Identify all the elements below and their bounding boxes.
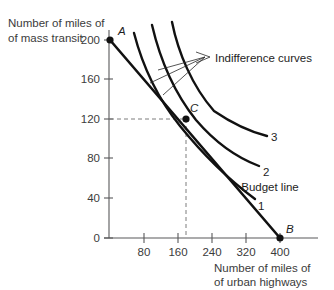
y-axis-title-line-1: Number of miles of bbox=[8, 17, 105, 29]
point-a-marker bbox=[106, 36, 113, 43]
chart-canvas: 0 40 80 120 160 200 80 160 240 320 400 bbox=[0, 0, 334, 290]
curve-label-1: 1 bbox=[258, 200, 264, 212]
y-tick-label-0: 0 bbox=[94, 232, 100, 244]
x-tick-label-400: 400 bbox=[270, 246, 289, 258]
x-axis-title-line-1: Number of miles of bbox=[214, 262, 311, 274]
point-c-marker bbox=[182, 115, 189, 122]
x-tick-label-240: 240 bbox=[202, 246, 221, 258]
y-tick-label-160: 160 bbox=[81, 73, 100, 85]
y-tick-label-80: 80 bbox=[87, 152, 100, 164]
y-tick-label-200: 200 bbox=[81, 34, 100, 46]
y-axis-title-line-2: of mass transit bbox=[8, 32, 84, 44]
point-b-label: B bbox=[286, 223, 294, 235]
curve-label-3: 3 bbox=[271, 131, 277, 143]
point-a-label: A bbox=[117, 25, 126, 37]
x-tick-label-80: 80 bbox=[138, 246, 151, 258]
indifference-curve-2 bbox=[152, 25, 259, 166]
x-axis-title-line-2: of urban highways bbox=[214, 276, 308, 288]
indifference-curves-annotation: Indifference curves bbox=[215, 52, 312, 64]
y-tick-label-120: 120 bbox=[81, 113, 100, 125]
point-b-marker bbox=[276, 234, 283, 241]
curve-label-2: 2 bbox=[263, 166, 269, 178]
indifference-curve-figure: 0 40 80 120 160 200 80 160 240 320 400 bbox=[0, 0, 334, 290]
y-tick-label-40: 40 bbox=[87, 192, 100, 204]
point-c-label: C bbox=[190, 102, 199, 114]
x-tick-label-160: 160 bbox=[168, 246, 187, 258]
budget-line-label: Budget line bbox=[241, 181, 299, 193]
budget-line bbox=[110, 40, 280, 238]
x-tick-label-320: 320 bbox=[236, 246, 255, 258]
